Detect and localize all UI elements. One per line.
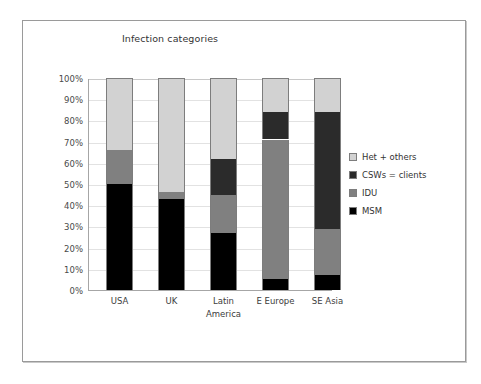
bar-segment-csws-clients: [210, 159, 237, 195]
bar-segment-msm: [314, 275, 341, 290]
x-tick-label-line: Latin: [213, 296, 234, 306]
x-tick-label-line: USA: [111, 296, 129, 306]
legend-item-msm: MSM: [349, 202, 449, 220]
y-tick-label-60: 60%: [64, 159, 83, 169]
y-tick-label-100: 100%: [59, 74, 83, 84]
bar-uk: [158, 79, 185, 290]
legend-item-csws-clients: CSWs = clients: [349, 166, 449, 184]
bar-segment-het-others: [314, 78, 341, 112]
bar-segment-msm: [106, 184, 133, 290]
x-tick-label-line: E Europe: [257, 296, 295, 306]
bar-segment-het-others: [262, 78, 289, 112]
bar-e-europe: [262, 79, 289, 290]
x-tick-label-line: UK: [166, 296, 178, 306]
bar-segment-msm: [210, 233, 237, 290]
bar-segment-csws-clients: [314, 112, 341, 229]
y-tick-label-10: 10%: [64, 265, 83, 275]
y-tick-label-30: 30%: [64, 222, 83, 232]
bar-usa: [106, 79, 133, 290]
legend-swatch-icon: [349, 189, 357, 197]
bar-segment-csws-clients: [262, 112, 289, 140]
legend-item-het-others: Het + others: [349, 148, 449, 166]
chart-title: Infection categories: [0, 33, 340, 44]
chart-legend: Het + othersCSWs = clientsIDUMSM: [349, 148, 449, 220]
bar-segment-idu: [210, 195, 237, 233]
x-tick-label-se-asia: SE Asia: [297, 295, 359, 308]
x-tick-label-line: SE Asia: [312, 296, 343, 306]
y-tick-label-80: 80%: [64, 116, 83, 126]
legend-swatch-icon: [349, 207, 357, 215]
x-tick-label-line: America: [193, 308, 255, 321]
legend-item-idu: IDU: [349, 184, 449, 202]
bar-segment-idu: [262, 140, 289, 280]
bar-segment-msm: [262, 279, 289, 290]
bar-segment-idu: [106, 150, 133, 184]
legend-swatch-icon: [349, 153, 357, 161]
legend-swatch-icon: [349, 171, 357, 179]
legend-item-label: CSWs = clients: [362, 170, 426, 180]
bar-segment-het-others: [210, 78, 237, 159]
y-tick-label-90: 90%: [64, 95, 83, 105]
y-tick-label-0: 0%: [70, 286, 84, 296]
y-tick-label-70: 70%: [64, 138, 83, 148]
x-axis-line: [88, 290, 332, 291]
legend-item-label: Het + others: [362, 152, 417, 162]
bar-segment-msm: [158, 199, 185, 290]
legend-item-label: IDU: [362, 188, 377, 198]
bar-se-asia: [314, 79, 341, 290]
bar-segment-idu: [314, 229, 341, 276]
legend-item-label: MSM: [362, 206, 382, 216]
plot-area: 100%90%80%70%60%50%40%30%20%10%0% USAUKL…: [88, 79, 332, 291]
bar-segment-idu: [158, 192, 185, 198]
y-tick-label-40: 40%: [64, 201, 83, 211]
bar-latin-america: [210, 79, 237, 290]
y-tick-label-20: 20%: [64, 244, 83, 254]
chart-page: Infection categories 100%90%80%70%60%50%…: [0, 0, 481, 384]
bar-segment-het-others: [158, 78, 185, 192]
y-tick-label-50: 50%: [64, 180, 83, 190]
bar-segment-het-others: [106, 78, 133, 150]
